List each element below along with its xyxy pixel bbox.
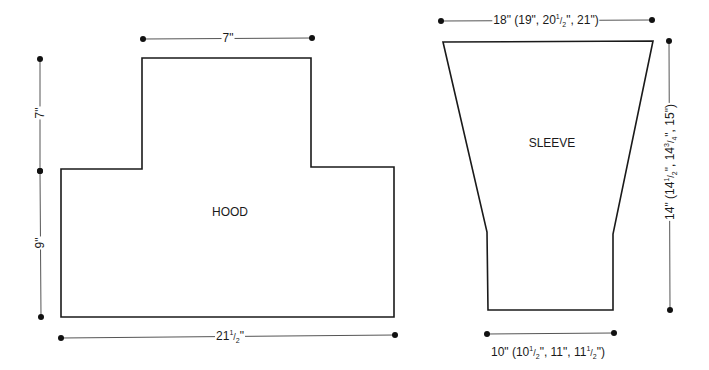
fraction-numerator: 3 [663, 143, 670, 147]
sleeve-cuff-width-line [487, 333, 614, 334]
fraction-slash: / [666, 175, 676, 178]
fraction-numerator: 1 [663, 178, 670, 182]
label-part: ", 14 [663, 147, 677, 171]
schematic-canvas [0, 0, 709, 370]
hood-top-width-value: 7" [223, 31, 234, 45]
hood-lower-height-label: 9" [33, 237, 47, 250]
sleeve-length-label: 14" (141/2", 143/4", 15") [663, 103, 678, 221]
hood-top-width-label: 7" [222, 31, 235, 45]
hood-upper-height-start-dot-icon [37, 56, 43, 62]
hood-lower-height-value: 9" [33, 238, 47, 249]
hood-upper-height-value: 7" [33, 108, 47, 119]
sleeve-cuff-width-start-dot-icon [484, 331, 490, 337]
hood-bottom-width-end-dot-icon [392, 332, 398, 338]
hood-bottom-width-label: 211/2" [215, 329, 245, 344]
label-part: ", 21") [566, 13, 599, 27]
hood-top-width-end-dot-icon [309, 35, 315, 41]
hood-upper-height-label: 7" [33, 107, 47, 120]
sleeve-top-width-end-dot-icon [649, 17, 655, 23]
hood-top-width-start-dot-icon [140, 36, 146, 42]
fraction-denominator: 4 [671, 137, 678, 141]
fraction-denominator: 2 [671, 171, 678, 175]
sleeve-label: SLEEVE [529, 136, 576, 150]
fraction-slash: / [666, 141, 676, 144]
sleeve-top-width-start-dot-icon [438, 18, 444, 24]
sleeve-top-width-label: 18" (19", 201/2", 21") [492, 13, 599, 28]
label-part: ") [597, 345, 605, 359]
sleeve-outline [443, 41, 653, 310]
sleeve-length-end-dot-icon [667, 307, 673, 313]
hood-bottom-width-start-dot-icon [58, 335, 64, 341]
label-part: ", 15") [663, 104, 677, 137]
label-part: 14" (14 [663, 182, 677, 220]
label-part: 18" (19", 20 [493, 13, 556, 27]
sleeve-cuff-width-end-dot-icon [611, 330, 617, 336]
hood-bottom-width-whole: 21 [216, 329, 229, 343]
sleeve-length-start-dot-icon [666, 38, 672, 44]
label-part: 10" (10 [491, 345, 529, 359]
hood-lower-height-end-dot-icon [38, 314, 44, 320]
label-part: ", 11", 11 [540, 345, 587, 359]
hood-lower-height-start-dot-icon [37, 168, 43, 174]
sleeve-cuff-width-label: 10" (101/2", 11", 111/2") [490, 345, 606, 360]
hood-label: HOOD [212, 205, 248, 219]
hood-outline [61, 58, 394, 317]
inch-mark: " [240, 329, 244, 343]
